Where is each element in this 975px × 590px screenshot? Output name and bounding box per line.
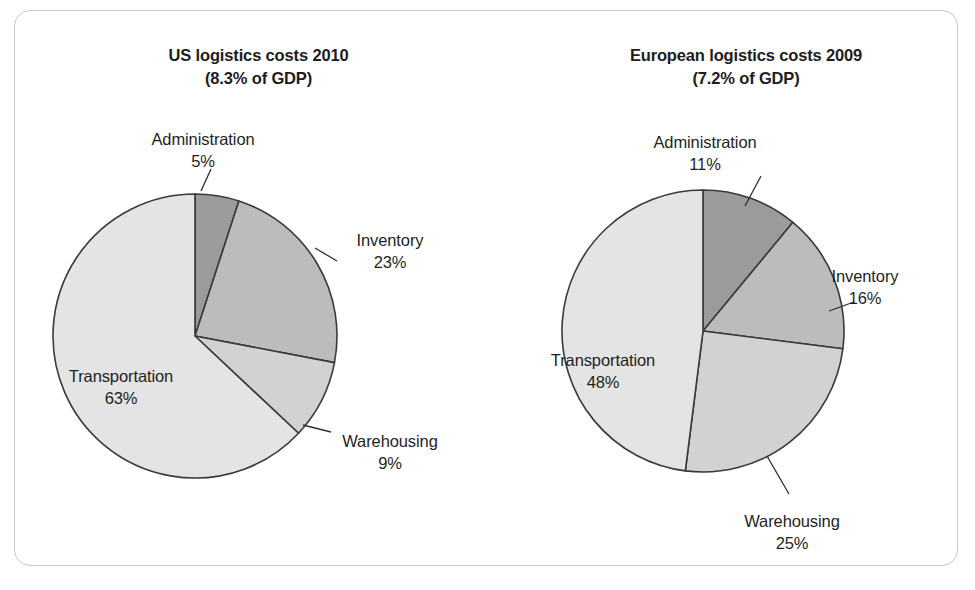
pie-label-us-transportation-value: 63%	[38, 388, 204, 410]
pie-slice-us-warehousing	[195, 336, 334, 433]
pie-label-us-transportation-name: Transportation	[69, 367, 173, 385]
pie-label-europe-transportation-name: Transportation	[551, 351, 655, 369]
pie-label-us-transportation: Transportation 63%	[38, 366, 204, 410]
pie-label-europe-administration-value: 11%	[625, 154, 785, 176]
chart-title-europe-sub: (7.2% of GDP)	[502, 67, 975, 90]
leader-line-europe-warehousing	[767, 456, 789, 494]
figure-frame: US logistics costs 2010 (8.3% of GDP) Ad…	[14, 10, 958, 566]
pie-label-us-inventory-name: Inventory	[357, 231, 424, 249]
pie-label-us-warehousing-value: 9%	[315, 453, 465, 475]
chart-title-us-main: US logistics costs 2010	[169, 46, 349, 64]
pie-label-europe-warehousing-name: Warehousing	[744, 512, 840, 530]
leader-line-europe-administration	[745, 176, 761, 206]
pie-label-us-warehousing: Warehousing 9%	[315, 431, 465, 475]
pie-label-europe-transportation-value: 48%	[520, 372, 686, 394]
chart-title-europe-main: European logistics costs 2009	[630, 46, 862, 64]
pie-stage-us	[15, 11, 502, 565]
pie-label-europe-inventory-value: 16%	[800, 288, 930, 310]
pie-slice-europe-transportation	[562, 190, 703, 471]
pie-slice-europe-warehousing	[685, 331, 843, 472]
pie-label-europe-inventory-name: Inventory	[832, 267, 899, 285]
chart-title-us-sub: (8.3% of GDP)	[15, 67, 502, 90]
pie-label-europe-administration: Administration 11%	[625, 132, 785, 176]
pie-slice-us-transportation	[53, 194, 299, 478]
pie-slice-us-inventory	[195, 201, 337, 363]
pie-label-us-warehousing-name: Warehousing	[342, 432, 438, 450]
pie-label-us-administration-value: 5%	[123, 151, 283, 173]
chart-panel-us: US logistics costs 2010 (8.3% of GDP) Ad…	[15, 11, 502, 565]
pie-label-us-inventory: Inventory 23%	[325, 230, 455, 274]
pie-label-europe-administration-name: Administration	[653, 133, 756, 151]
pie-slice-us-administration	[195, 194, 239, 336]
pie-label-us-administration: Administration 5%	[123, 129, 283, 173]
pie-slice-europe-administration	[703, 190, 793, 331]
pie-label-us-inventory-value: 23%	[325, 252, 455, 274]
pie-chart-us	[15, 11, 502, 567]
pie-label-europe-warehousing: Warehousing 25%	[712, 511, 872, 555]
pie-label-europe-inventory: Inventory 16%	[800, 266, 930, 310]
chart-title-europe: European logistics costs 2009 (7.2% of G…	[502, 44, 975, 91]
chart-panel-europe: European logistics costs 2009 (7.2% of G…	[502, 11, 975, 565]
chart-title-us: US logistics costs 2010 (8.3% of GDP)	[15, 44, 502, 91]
pie-label-europe-transportation: Transportation 48%	[520, 350, 686, 394]
pie-label-us-administration-name: Administration	[151, 130, 254, 148]
pie-label-europe-warehousing-value: 25%	[712, 533, 872, 555]
